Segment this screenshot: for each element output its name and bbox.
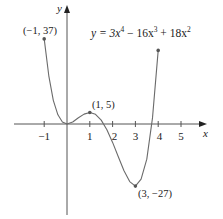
point-local-min (134, 184, 138, 188)
chart: −1 1 2 3 4 5 x y (−1, 37) (1, 5) (3, −27… (0, 0, 223, 219)
point-local-max (88, 111, 92, 115)
tick-label-2: 2 (112, 130, 118, 142)
x-axis-label: x (202, 127, 208, 139)
tick-label-m1: −1 (38, 130, 50, 142)
y-axis-arrow-icon (64, 5, 70, 13)
point-label-left: (−1, 37) (23, 25, 57, 37)
point-label-max: (1, 5) (92, 99, 115, 111)
point-left-end (42, 37, 46, 41)
tick-label-5: 5 (178, 130, 184, 142)
tick-label-1: 1 (87, 130, 93, 142)
point-right-end (156, 49, 160, 53)
tick-label-3: 3 (133, 130, 139, 142)
function-curve (44, 39, 158, 186)
point-label-min: (3, −27) (138, 188, 172, 200)
y-axis-label: y (56, 2, 62, 14)
tick-label-4: 4 (157, 130, 163, 142)
equation-label: y = 3x4 − 16x3 + 18x2 (90, 25, 191, 40)
